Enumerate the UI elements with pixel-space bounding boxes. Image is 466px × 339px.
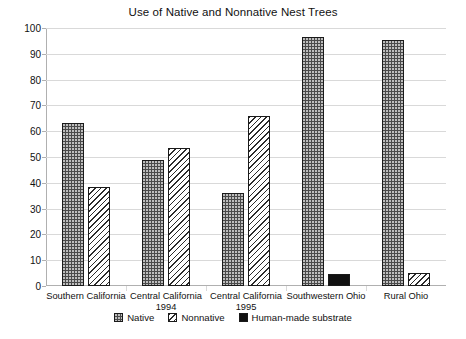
legend-item[interactable]: Native [114, 312, 154, 323]
chart-container: Use of Native and Nonnative Nest Trees 0… [0, 0, 466, 339]
bar[interactable] [62, 123, 84, 286]
legend-item[interactable]: Nonnative [168, 312, 224, 323]
y-axis-tick-label: 60 [30, 126, 41, 137]
legend-swatch-icon [114, 313, 123, 322]
legend-label: Native [127, 312, 154, 323]
bar[interactable] [328, 274, 350, 286]
y-axis-tick-label: 90 [30, 48, 41, 59]
bar[interactable] [168, 148, 190, 286]
x-axis-tick-label: Rural Ohio [366, 291, 446, 302]
legend-swatch-icon [168, 313, 177, 322]
legend-label: Human-made substrate [252, 312, 352, 323]
legend-label: Nonnative [181, 312, 224, 323]
y-axis-tick-label: 40 [30, 177, 41, 188]
bar[interactable] [408, 273, 430, 286]
legend-swatch-icon [239, 313, 248, 322]
bar-group: Southern California [46, 28, 126, 286]
y-axis-tick-label: 10 [30, 255, 41, 266]
x-axis-separator [206, 286, 207, 291]
bar-group: Southwestern Ohio [286, 28, 366, 286]
x-axis-tick-label: Central California1995 [206, 291, 286, 313]
y-axis-tick-label: 30 [30, 203, 41, 214]
bar[interactable] [248, 116, 270, 286]
bar-group: Central California1994 [126, 28, 206, 286]
x-axis-separator [366, 286, 367, 291]
x-axis-tick-label: Southwestern Ohio [286, 291, 366, 302]
bar-group: Rural Ohio [366, 28, 446, 286]
chart-title: Use of Native and Nonnative Nest Trees [0, 6, 466, 18]
y-axis-tick-label: 0 [35, 281, 41, 292]
bar[interactable] [142, 160, 164, 286]
y-axis-tick-mark [42, 286, 46, 287]
bar[interactable] [382, 40, 404, 286]
bar-group: Central California1995 [206, 28, 286, 286]
x-axis-tick-label: Central California1994 [126, 291, 206, 313]
plot-area: 0102030405060708090100 Southern Californ… [46, 28, 446, 286]
legend-item[interactable]: Human-made substrate [239, 312, 352, 323]
y-axis-tick-label: 70 [30, 100, 41, 111]
x-axis-separator [126, 286, 127, 291]
y-axis-tick-label: 20 [30, 229, 41, 240]
y-axis-tick-label: 50 [30, 152, 41, 163]
y-axis-tick-label: 80 [30, 74, 41, 85]
y-axis-tick-label: 100 [24, 23, 41, 34]
chart-legend: NativeNonnativeHuman-made substrate [0, 312, 466, 323]
bar[interactable] [302, 37, 324, 286]
x-axis-separator [286, 286, 287, 291]
bar[interactable] [222, 193, 244, 286]
bar[interactable] [88, 187, 110, 286]
x-axis-tick-label: Southern California [46, 291, 126, 302]
